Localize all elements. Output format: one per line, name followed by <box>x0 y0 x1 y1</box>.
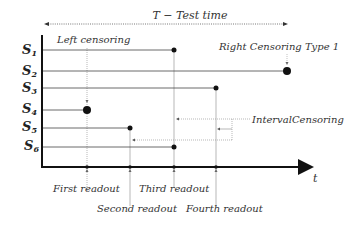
readout-label-second: Second readout <box>97 203 178 214</box>
event-dot-s6 <box>172 145 177 150</box>
tick-arrows <box>86 169 218 172</box>
readout-labels: First readout Second readout Third reado… <box>52 183 264 214</box>
interval-censoring-annotation: IntervalCensoring <box>132 114 344 142</box>
subject-lines <box>43 50 287 147</box>
subject-label-s3: S3 <box>22 80 37 96</box>
arrow-left-icon <box>44 22 49 26</box>
arrow-right-icon <box>283 22 288 26</box>
readout-label-third: Third readout <box>139 183 210 194</box>
arrow-left-icon <box>176 118 179 121</box>
test-time-label: T − Test time <box>153 9 228 22</box>
event-dot-s3 <box>214 86 219 91</box>
readout-label-fourth: Fourth readout <box>185 203 264 214</box>
readout-label-first: First readout <box>52 183 121 194</box>
event-dot-s5 <box>128 126 133 131</box>
interval-censoring-label: IntervalCensoring <box>251 114 344 125</box>
left-censoring-label: Left censoring <box>56 34 130 45</box>
censoring-diagram: T − Test time <box>0 0 360 225</box>
event-dot-s4 <box>83 106 91 114</box>
left-censoring-annotation: Left censoring <box>56 34 130 103</box>
arrow-left-icon <box>132 139 135 142</box>
subject-label-s1: S1 <box>22 42 37 58</box>
subject-label-s5: S5 <box>22 119 37 135</box>
arrow-down-icon <box>286 62 289 65</box>
event-dot-s1 <box>172 48 177 53</box>
test-time-span: T − Test time <box>44 9 288 26</box>
arrow-left-icon <box>217 128 220 131</box>
x-axis-label: t <box>313 172 318 185</box>
subject-labels: S1 S2 S3 S4 S5 S6 <box>22 42 39 154</box>
end-markers <box>83 48 291 150</box>
arrow-down-icon <box>86 100 89 103</box>
subject-label-s2: S2 <box>22 63 37 79</box>
right-censoring-annotation: Right Censoring Type 1 <box>218 41 339 65</box>
subject-label-s4: S4 <box>22 101 37 117</box>
right-censoring-label: Right Censoring Type 1 <box>218 41 339 52</box>
subject-label-s6: S6 <box>24 138 39 154</box>
event-dot-s2 <box>283 67 291 75</box>
